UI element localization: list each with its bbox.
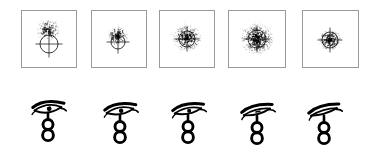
double-circle-stem-5 [319, 116, 330, 144]
eye-glyph-drawing-1 [26, 94, 72, 144]
eye-glyph-1 [26, 94, 72, 144]
stipple-burst-3 [171, 21, 202, 53]
eye-glyph-row [0, 80, 376, 146]
double-circle-stem-3 [183, 115, 194, 143]
eye-glyph-2 [98, 96, 144, 146]
burst-panel-1 [21, 10, 77, 68]
eye-glyph-drawing-5 [302, 97, 348, 146]
burst-panel-3 [159, 10, 215, 68]
eye-glyph-drawing-2 [98, 96, 144, 146]
burst-symbol-2 [91, 10, 147, 68]
eye-glyph-4 [235, 97, 281, 146]
burst-symbol-3 [159, 10, 215, 68]
burst-panel-5 [302, 10, 359, 68]
burst-symbol-5 [302, 10, 359, 68]
double-circle-stem-1 [43, 113, 54, 141]
burst-symbol-4 [228, 10, 286, 68]
eye-glyph-5 [302, 97, 348, 146]
stipple-burst-1 [37, 20, 59, 41]
eye-glyph-3 [166, 96, 212, 146]
eye-glyph-drawing-3 [166, 96, 212, 146]
burst-panel-2 [91, 10, 147, 68]
burst-symbol-1 [21, 10, 77, 68]
double-circle-stem-2 [115, 115, 126, 143]
figure-root [0, 0, 376, 146]
crosshair-circle-1 [36, 31, 63, 58]
double-circle-stem-4 [252, 116, 263, 144]
framed-burst-panel-row [0, 0, 376, 80]
eye-glyph-drawing-4 [235, 97, 281, 146]
burst-panel-4 [228, 10, 286, 68]
